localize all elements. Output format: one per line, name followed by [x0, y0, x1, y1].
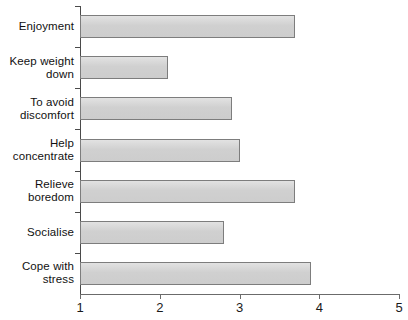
- bar: [80, 139, 240, 162]
- y-axis-tick: [75, 212, 80, 213]
- x-axis-tick-label: 2: [150, 300, 170, 316]
- y-axis-tick: [75, 171, 80, 172]
- x-axis-tick: [319, 294, 320, 299]
- y-axis-tick: [75, 47, 80, 48]
- x-axis-tick-label: 1: [70, 300, 90, 316]
- x-axis-tick-label: 4: [309, 300, 329, 316]
- category-label-line: To avoid: [0, 96, 74, 109]
- x-axis-tick: [160, 294, 161, 299]
- bar: [80, 97, 232, 120]
- bar: [80, 262, 311, 285]
- horizontal-bar-chart: EnjoymentKeep weightdownTo avoiddiscomfo…: [0, 0, 408, 320]
- bar: [80, 15, 295, 38]
- category-label: Keep weightdown: [0, 55, 74, 81]
- category-label-line: Cope with: [0, 260, 74, 273]
- x-axis-tick: [399, 294, 400, 299]
- category-label-line: Socialise: [0, 226, 74, 239]
- category-label-line: stress: [0, 273, 74, 286]
- bar: [80, 221, 224, 244]
- y-axis-tick: [75, 129, 80, 130]
- x-axis-tick-label: 3: [230, 300, 250, 316]
- x-axis-tick-label: 5: [389, 300, 408, 316]
- category-label-line: Relieve: [0, 178, 74, 191]
- y-axis-tick: [75, 6, 80, 7]
- category-label: Relieveboredom: [0, 178, 74, 204]
- bar: [80, 56, 168, 79]
- category-label: Socialise: [0, 226, 74, 239]
- plot-area: [80, 6, 399, 294]
- category-label-line: down: [0, 68, 74, 81]
- category-label-line: Enjoyment: [0, 20, 74, 33]
- y-axis-tick: [75, 253, 80, 254]
- category-label-line: discomfort: [0, 109, 74, 122]
- category-label: Cope withstress: [0, 260, 74, 286]
- y-axis-tick: [75, 88, 80, 89]
- bar: [80, 180, 295, 203]
- category-label-line: boredom: [0, 191, 74, 204]
- category-label-line: Keep weight: [0, 55, 74, 68]
- category-label: To avoiddiscomfort: [0, 96, 74, 122]
- category-label: Enjoyment: [0, 20, 74, 33]
- x-axis-tick: [80, 294, 81, 299]
- x-axis-tick: [240, 294, 241, 299]
- category-label-line: concentrate: [0, 150, 74, 163]
- category-label: Helpconcentrate: [0, 137, 74, 163]
- category-label-line: Help: [0, 137, 74, 150]
